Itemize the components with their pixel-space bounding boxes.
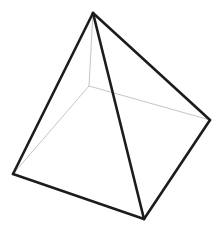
pyramid-wireframe-diagram <box>0 0 224 236</box>
figure-canvas <box>0 0 224 236</box>
